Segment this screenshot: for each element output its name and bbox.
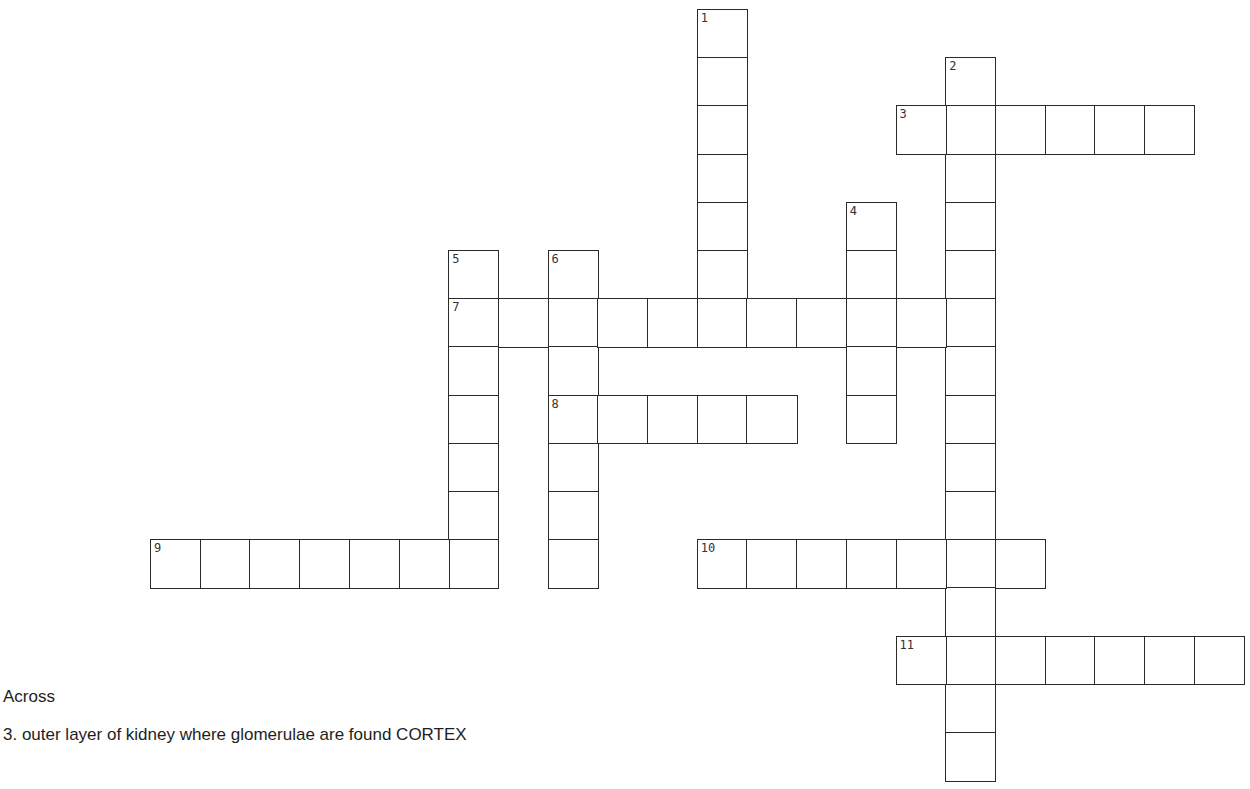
crossword-cell[interactable] (697, 395, 748, 445)
crossword-cell[interactable] (1194, 636, 1245, 686)
across-heading: Across (3, 686, 467, 708)
crossword-cell[interactable] (796, 298, 847, 348)
crossword-cell[interactable] (945, 587, 996, 637)
crossword-cell[interactable] (945, 202, 996, 252)
crossword-cell[interactable] (945, 395, 996, 445)
crossword-cell[interactable] (448, 346, 499, 396)
crossword-cell[interactable] (697, 105, 748, 155)
clue-number: 4 (850, 204, 857, 218)
crossword-cell[interactable] (1094, 105, 1145, 155)
crossword-cell[interactable] (945, 539, 996, 589)
crossword-cell[interactable] (796, 539, 847, 589)
crossword-cell[interactable] (697, 250, 748, 300)
crossword-cell[interactable]: 7 (448, 298, 499, 348)
crossword-cell[interactable] (846, 395, 897, 445)
crossword-cell[interactable] (548, 539, 599, 589)
crossword-cell[interactable] (995, 539, 1046, 589)
clue-number: 6 (552, 252, 559, 266)
crossword-cell[interactable] (697, 298, 748, 348)
clue-number: 2 (949, 59, 956, 73)
crossword-cell[interactable] (995, 636, 1046, 686)
crossword-cell[interactable] (746, 298, 797, 348)
crossword-cell[interactable] (647, 298, 698, 348)
crossword-cell[interactable]: 6 (548, 250, 599, 300)
crossword-cell[interactable] (399, 539, 450, 589)
crossword-cell[interactable] (1144, 636, 1195, 686)
crossword-cell[interactable] (1045, 636, 1096, 686)
crossword-cell[interactable] (548, 346, 599, 396)
crossword-cell[interactable] (945, 250, 996, 300)
clue-number: 11 (900, 638, 914, 652)
crossword-cell[interactable] (945, 105, 996, 155)
crossword-cell[interactable]: 3 (896, 105, 947, 155)
crossword-cell[interactable] (945, 636, 996, 686)
crossword-cell[interactable]: 5 (448, 250, 499, 300)
crossword-cell[interactable] (896, 539, 947, 589)
crossword-cell[interactable]: 10 (697, 539, 748, 589)
clues-section: Across 3. outer layer of kidney where gl… (3, 686, 467, 746)
crossword-cell[interactable] (846, 250, 897, 300)
crossword-cell[interactable] (597, 298, 648, 348)
clue-number: 8 (552, 397, 559, 411)
crossword-cell[interactable] (597, 395, 648, 445)
crossword-cell[interactable] (200, 539, 251, 589)
crossword-cell[interactable] (448, 395, 499, 445)
crossword-cell[interactable] (846, 298, 897, 348)
clue-number: 9 (154, 541, 161, 555)
crossword-cell[interactable] (498, 298, 549, 348)
clue-number: 5 (452, 252, 459, 266)
crossword-cell[interactable] (697, 154, 748, 204)
crossword-cell[interactable] (945, 154, 996, 204)
clue-number: 1 (701, 11, 708, 25)
crossword-cell[interactable] (846, 346, 897, 396)
crossword-cell[interactable] (299, 539, 350, 589)
crossword-cell[interactable] (448, 443, 499, 493)
crossword-grid: 1234576891011 (0, 0, 1250, 789)
crossword-cell[interactable] (945, 732, 996, 782)
crossword-cell[interactable] (349, 539, 400, 589)
crossword-cell[interactable] (746, 539, 797, 589)
crossword-cell[interactable]: 11 (896, 636, 947, 686)
crossword-cell[interactable] (896, 298, 947, 348)
clue-number: 7 (452, 300, 459, 314)
crossword-cell[interactable] (945, 684, 996, 734)
crossword-cell[interactable] (746, 395, 797, 445)
crossword-cell[interactable] (945, 346, 996, 396)
crossword-cell[interactable]: 4 (846, 202, 897, 252)
crossword-cell[interactable] (548, 491, 599, 541)
crossword-cell[interactable]: 8 (548, 395, 599, 445)
crossword-cell[interactable] (448, 539, 499, 589)
crossword-cell[interactable]: 1 (697, 9, 748, 59)
crossword-cell[interactable] (1144, 105, 1195, 155)
crossword-cell[interactable] (697, 57, 748, 107)
crossword-cell[interactable] (995, 105, 1046, 155)
crossword-cell[interactable] (1045, 105, 1096, 155)
crossword-cell[interactable] (1094, 636, 1145, 686)
crossword-cell[interactable] (249, 539, 300, 589)
crossword-cell[interactable]: 2 (945, 57, 996, 107)
crossword-cell[interactable] (945, 298, 996, 348)
crossword-cell[interactable] (945, 443, 996, 493)
crossword-cell[interactable] (697, 202, 748, 252)
crossword-cell[interactable] (945, 491, 996, 541)
crossword-cell[interactable] (448, 491, 499, 541)
clue-number: 3 (900, 107, 907, 121)
clue-across-3: 3. outer layer of kidney where glomerula… (3, 724, 467, 746)
crossword-cell[interactable] (846, 539, 897, 589)
crossword-cell[interactable] (548, 298, 599, 348)
crossword-cell[interactable] (548, 443, 599, 493)
clue-number: 10 (701, 541, 715, 555)
crossword-cell[interactable] (647, 395, 698, 445)
crossword-cell[interactable]: 9 (150, 539, 201, 589)
